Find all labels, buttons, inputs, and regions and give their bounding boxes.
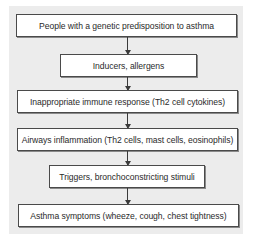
arrow-down-icon [127, 151, 128, 165]
node-label: Asthma symptoms (wheeze, cough, chest ti… [30, 211, 226, 221]
node-label: Triggers, bronchoconstricting stimuli [59, 172, 194, 182]
node-label: Inappropriate immune response (Th2 cell … [30, 97, 225, 107]
flow-node-triggers: Triggers, bronchoconstricting stimuli [49, 165, 205, 188]
arrow-down-icon [127, 37, 128, 54]
flow-node-airways-inflammation: Airways inflammation (Th2 cells, mast ce… [17, 128, 238, 151]
arrow-down-icon [127, 113, 128, 128]
flow-node-immune-response: Inappropriate immune response (Th2 cell … [17, 90, 238, 113]
flow-node-inducers-allergens: Inducers, allergens [60, 54, 197, 77]
arrow-down-icon [127, 77, 128, 90]
node-label: Airways inflammation (Th2 cells, mast ce… [22, 135, 234, 145]
node-label: People with a genetic predisposition to … [39, 21, 214, 31]
flow-node-genetic-predisposition: People with a genetic predisposition to … [16, 14, 237, 37]
flow-node-asthma-symptoms: Asthma symptoms (wheeze, cough, chest ti… [18, 204, 239, 227]
node-label: Inducers, allergens [93, 61, 165, 71]
arrow-down-icon [127, 188, 128, 204]
